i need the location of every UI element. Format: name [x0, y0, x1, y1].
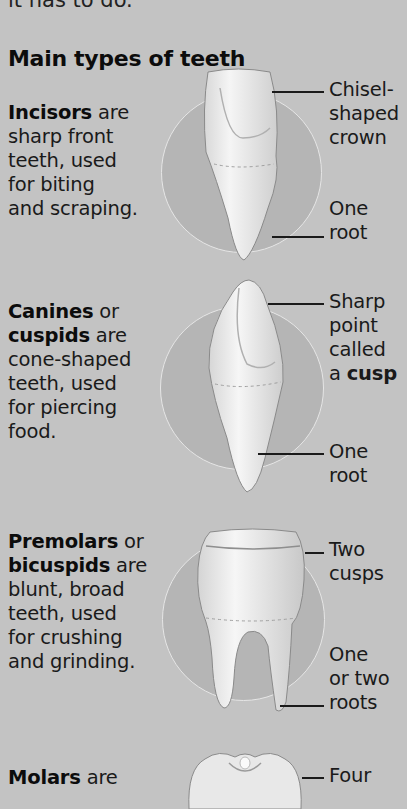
canine-tooth-illustration: [203, 278, 293, 498]
premolar-cusps-leader-line: [305, 552, 324, 554]
canine-cusp-label: Sharp point called a cusp: [329, 290, 397, 386]
canine-root-leader-line: [258, 453, 324, 455]
incisor-root-leader-line: [272, 236, 324, 238]
bicuspid-term: bicuspids: [8, 554, 110, 577]
incisor-root-label: One root: [329, 197, 368, 245]
molar-cusps-leader-line: [302, 777, 324, 779]
premolar-cusps-label: Two cusps: [329, 538, 384, 586]
molar-cusps-label: Four: [329, 764, 371, 788]
canine-description: Canines or cuspids are cone-shaped teeth…: [8, 300, 131, 444]
premolar-tooth-illustration: [196, 528, 308, 718]
molar-term: Molars: [8, 766, 81, 789]
canine-cusp-leader-line: [268, 303, 324, 305]
cuspid-term: cuspids: [8, 324, 90, 347]
premolar-term: Premolars: [8, 530, 118, 553]
premolar-description: Premolars or bicuspids are blunt, broad …: [8, 530, 147, 674]
incisor-crown-label: Chisel- shaped crown: [329, 78, 399, 150]
incisor-crown-leader-line: [272, 91, 324, 93]
cusp-term: cusp: [347, 362, 397, 385]
cut-off-text-line: it has to do.: [8, 0, 133, 12]
molar-description: Molars are: [8, 766, 118, 790]
premolar-roots-leader-line: [280, 705, 324, 707]
canine-term: Canines: [8, 300, 93, 323]
premolar-roots-label: One or two roots: [329, 643, 389, 715]
molar-tooth-illustration: [185, 749, 305, 809]
canine-root-label: One root: [329, 440, 368, 488]
incisor-term: Incisors: [8, 101, 92, 124]
incisor-tooth-illustration: [198, 68, 288, 268]
incisor-description: Incisors are sharp front teeth, used for…: [8, 101, 138, 221]
